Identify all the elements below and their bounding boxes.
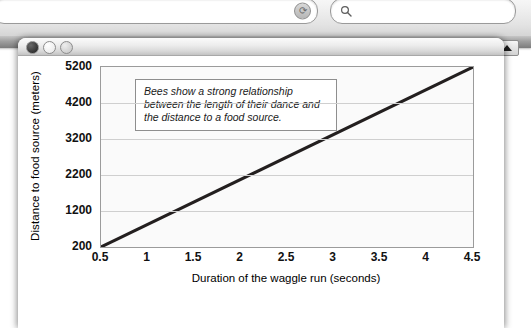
y-axis-ticks: 52004200320022001200200 <box>48 56 96 256</box>
gridline <box>101 103 473 104</box>
x-axis-tick: 4 <box>422 250 429 264</box>
minimize-dot[interactable] <box>43 41 56 54</box>
x-axis-tick: 1 <box>143 250 150 264</box>
plot-area: Bees show a strong relationship between … <box>100 66 474 248</box>
x-axis-tick: 3.5 <box>371 250 388 264</box>
gridline <box>101 139 473 140</box>
browser-toolbar: ⟳ <box>0 0 531 28</box>
x-axis-tick: 4.5 <box>464 250 481 264</box>
y-axis-tick: 2200 <box>65 167 92 181</box>
y-axis-tick: 4200 <box>65 95 92 109</box>
chart-window: Distance to food source (meters) 5200420… <box>18 38 504 328</box>
gridline <box>101 211 473 212</box>
annotation-text: Bees show a strong relationship between … <box>144 85 328 124</box>
reload-icon[interactable]: ⟳ <box>294 3 311 20</box>
window-titlebar[interactable] <box>18 38 504 56</box>
search-input[interactable] <box>330 0 516 24</box>
x-axis-tick: 0.5 <box>92 250 109 264</box>
zoom-dot[interactable] <box>60 41 73 54</box>
annotation-box: Bees show a strong relationship between … <box>135 79 337 131</box>
y-axis-tick: 200 <box>72 239 92 253</box>
x-axis-label: Duration of the waggle run (seconds) <box>100 272 472 284</box>
close-dot[interactable] <box>26 41 39 54</box>
search-icon <box>340 5 352 17</box>
x-axis-tick: 2.5 <box>278 250 295 264</box>
y-axis-label: Distance to food source (meters) <box>24 56 46 256</box>
gridline <box>101 175 473 176</box>
x-axis-tick: 1.5 <box>185 250 202 264</box>
line-chart: Distance to food source (meters) 5200420… <box>18 56 504 328</box>
y-axis-tick: 5200 <box>65 59 92 73</box>
x-axis-tick: 3 <box>329 250 336 264</box>
y-axis-tick: 1200 <box>65 203 92 217</box>
y-axis-tick: 3200 <box>65 131 92 145</box>
x-axis-tick: 2 <box>236 250 243 264</box>
address-bar-input[interactable]: ⟳ <box>0 0 318 24</box>
x-axis-ticks: 0.511.522.533.544.5 <box>100 250 472 268</box>
window-content: Distance to food source (meters) 5200420… <box>18 56 504 328</box>
y-axis-label-text: Distance to food source (meters) <box>29 71 41 241</box>
window-controls <box>26 41 73 54</box>
